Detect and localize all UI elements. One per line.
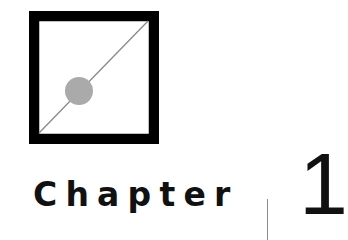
chapter-label: Chapter: [33, 178, 238, 211]
chapter-emblem-icon: [29, 11, 159, 144]
emblem-dot: [65, 77, 93, 105]
vertical-divider: [267, 199, 268, 240]
chapter-number: 1: [299, 140, 348, 228]
